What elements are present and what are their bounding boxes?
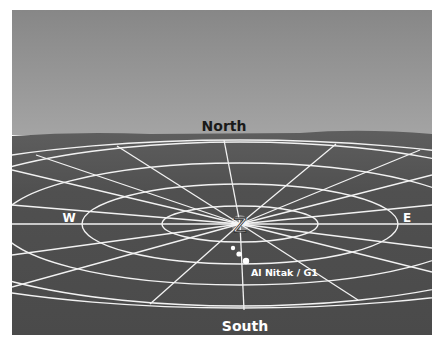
east-label: E bbox=[403, 211, 411, 225]
north-label: North bbox=[202, 118, 247, 134]
zenith-label: Z bbox=[233, 213, 247, 237]
sky-dome-diagram: North South W E Z Al Nitak / G1 bbox=[12, 10, 432, 335]
sky-background bbox=[12, 10, 432, 135]
star-dot-2 bbox=[236, 251, 241, 256]
star-dot-1 bbox=[231, 246, 235, 250]
south-label: South bbox=[222, 318, 268, 334]
west-label: W bbox=[62, 211, 75, 225]
ground-background bbox=[12, 131, 432, 335]
star-label: Al Nitak / G1 bbox=[251, 267, 318, 278]
star-dot-3 bbox=[243, 258, 249, 264]
